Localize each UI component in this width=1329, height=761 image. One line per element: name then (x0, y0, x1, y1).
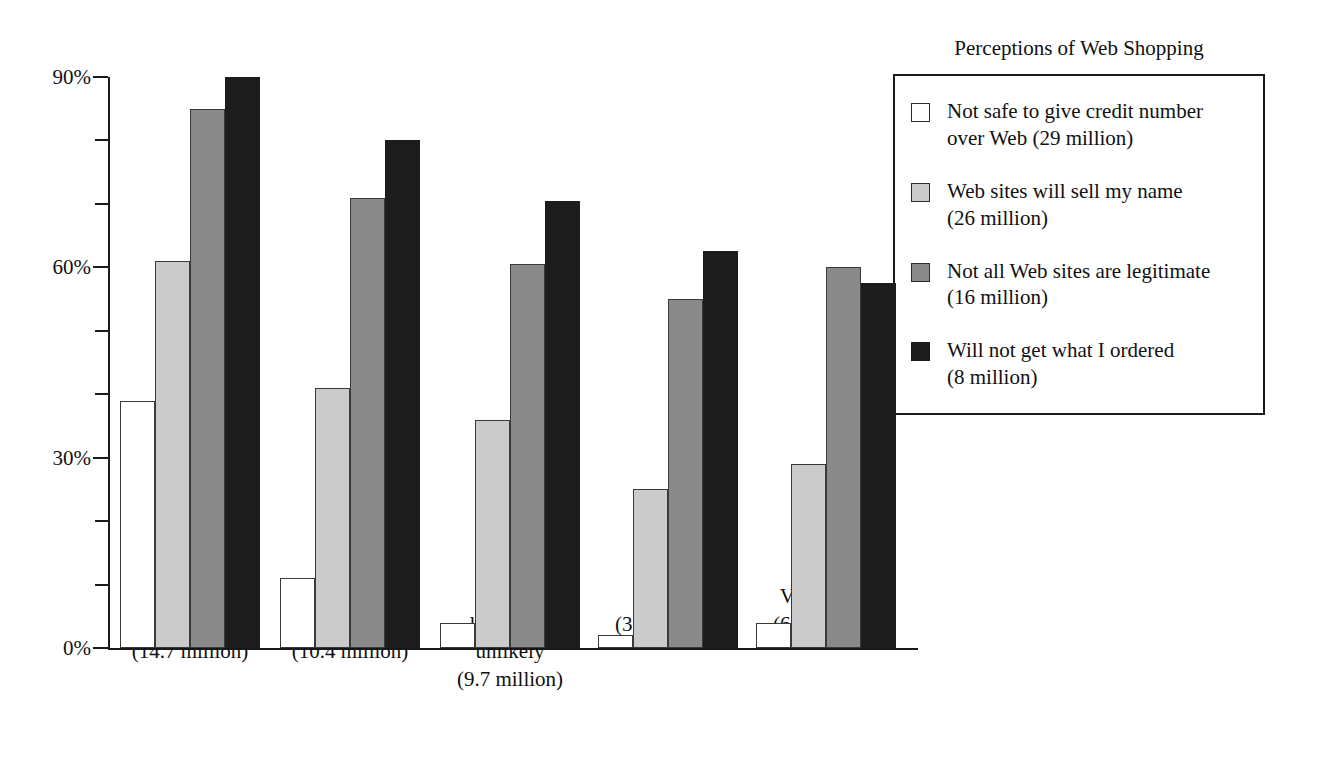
bar[interactable] (350, 198, 385, 648)
series-1-swatch (911, 183, 930, 202)
y-axis-tick (95, 203, 108, 205)
legend-item[interactable]: Not safe to give credit number over Web … (911, 98, 1245, 152)
bar[interactable] (826, 267, 861, 648)
y-axis-tick-label: 30% (53, 447, 92, 468)
bar[interactable] (545, 201, 580, 648)
bar[interactable] (633, 489, 668, 648)
series-3-swatch (911, 342, 930, 361)
y-axis-tick-label: 90% (53, 67, 92, 88)
y-axis-tick (95, 139, 108, 141)
bar[interactable] (861, 283, 896, 648)
bar-group (120, 77, 260, 648)
bar-group (440, 77, 580, 648)
bar[interactable] (510, 264, 545, 648)
bar-group (280, 77, 420, 648)
y-axis-tick (95, 520, 108, 522)
bar[interactable] (190, 109, 225, 648)
bar[interactable] (475, 420, 510, 648)
y-axis-tick (95, 393, 108, 395)
legend-box: Not safe to give credit number over Web … (893, 74, 1265, 415)
legend-item[interactable]: Not all Web sites are legitimate (16 mil… (911, 258, 1245, 312)
bar[interactable] (598, 635, 633, 648)
bar[interactable] (791, 464, 826, 648)
legend-title: Perceptions of Web Shopping (893, 36, 1265, 61)
bar[interactable] (225, 77, 260, 648)
bar[interactable] (703, 251, 738, 648)
bar[interactable] (440, 623, 475, 648)
legend-item[interactable]: Will not get what I ordered (8 million) (911, 337, 1245, 391)
y-axis-tick (93, 457, 108, 459)
bar-chart-figure: 0%30%60%90% Not at all likely (14.7 mill… (0, 0, 1329, 761)
y-axis-tick (95, 330, 108, 332)
bar[interactable] (756, 623, 791, 648)
legend: Perceptions of Web Shopping Not safe to … (893, 36, 1265, 415)
plot-area: 0%30%60%90% (108, 77, 918, 648)
y-axis-tick-label: 60% (53, 257, 92, 278)
bar[interactable] (385, 140, 420, 648)
legend-item-label: Will not get what I ordered (8 million) (947, 337, 1174, 391)
bar-group (756, 77, 896, 648)
y-axis-tick (93, 266, 108, 268)
y-axis-line (108, 77, 110, 649)
bar[interactable] (120, 401, 155, 648)
legend-item-label: Web sites will sell my name (26 million) (947, 178, 1183, 232)
bar[interactable] (280, 578, 315, 648)
bar[interactable] (668, 299, 703, 648)
legend-item[interactable]: Web sites will sell my name (26 million) (911, 178, 1245, 232)
series-0-swatch (911, 103, 930, 122)
y-axis-tick (93, 76, 108, 78)
legend-item-label: Not all Web sites are legitimate (16 mil… (947, 258, 1210, 312)
bar[interactable] (315, 388, 350, 648)
series-2-swatch (911, 263, 930, 282)
legend-item-label: Not safe to give credit number over Web … (947, 98, 1203, 152)
bar[interactable] (155, 261, 190, 648)
bar-group (598, 77, 738, 648)
